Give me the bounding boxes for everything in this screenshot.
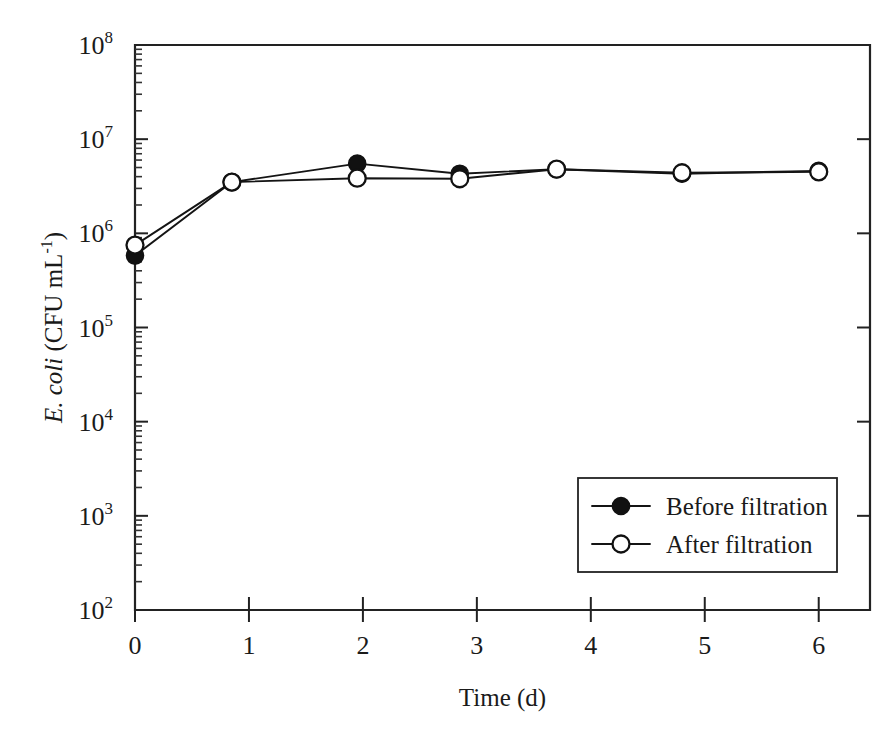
chart-figure: 102103104105106107108 0123456 Before fil… (0, 0, 895, 736)
log-line-chart: 102103104105106107108 0123456 Before fil… (0, 0, 895, 736)
y-tick-label-4: 104 (79, 405, 114, 437)
legend-label-0: Before filtration (666, 493, 828, 520)
x-tick-label-5: 5 (698, 631, 711, 660)
legend-marker-1 (613, 536, 630, 553)
y-tick-label-3: 103 (79, 499, 114, 531)
legend-label-1: After filtration (666, 531, 813, 558)
y-tick-label-5: 105 (79, 311, 114, 343)
data-point-1-4 (548, 161, 565, 178)
y-axis-tick-labels: 102103104105106107108 (79, 28, 114, 625)
y-tick-label-8: 108 (79, 28, 114, 60)
y-tick-label-2: 102 (79, 593, 114, 625)
chart-legend: Before filtrationAfter filtration (578, 478, 837, 572)
x-tick-label-4: 4 (584, 631, 597, 660)
x-tick-label-6: 6 (812, 631, 825, 660)
legend-marker-0 (613, 498, 630, 515)
data-point-1-0 (127, 237, 144, 254)
data-point-1-1 (223, 174, 240, 191)
x-tick-label-1: 1 (242, 631, 255, 660)
x-axis-title: Time (d) (459, 684, 546, 712)
x-axis-tick-labels: 0123456 (129, 631, 826, 660)
x-tick-label-3: 3 (470, 631, 483, 660)
data-point-1-3 (451, 170, 468, 187)
y-axis-title: E. coli (CFU mL-1) (38, 232, 68, 424)
data-point-1-6 (810, 163, 827, 180)
x-tick-label-0: 0 (129, 631, 142, 660)
y-tick-label-6: 106 (79, 216, 114, 248)
data-point-1-5 (673, 164, 690, 181)
y-tick-label-7: 107 (79, 122, 114, 154)
data-series (127, 155, 828, 264)
x-tick-label-2: 2 (356, 631, 369, 660)
data-point-1-2 (349, 170, 366, 187)
